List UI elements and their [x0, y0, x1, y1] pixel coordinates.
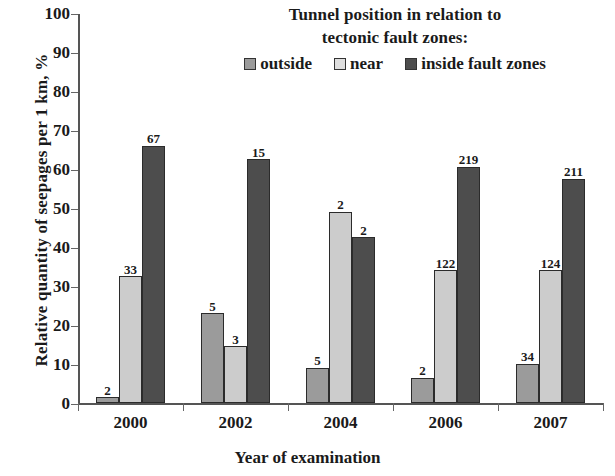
bar-2004-near: 2 [329, 212, 352, 403]
x-axis-tick-label: 2006 [393, 414, 498, 431]
y-axis-tick [71, 287, 78, 288]
y-axis-tick-label: 100 [26, 5, 70, 22]
y-axis-tick-label: 20 [26, 317, 70, 334]
y-axis-tick-label: 50 [26, 200, 70, 217]
y-axis-tick [71, 53, 78, 54]
x-axis-tick [78, 403, 79, 411]
x-axis-tick-label: 2007 [498, 414, 603, 431]
y-axis-tick [71, 365, 78, 366]
bar-value-label: 15 [252, 146, 265, 160]
bar-value-label: 2 [337, 198, 344, 212]
bar-value-label: 5 [314, 354, 321, 368]
bar-value-label: 34 [521, 350, 534, 364]
bar-value-label: 33 [124, 263, 137, 277]
y-axis-tick [71, 404, 78, 405]
bar-2004-outside: 5 [306, 368, 329, 403]
bar-value-label: 2 [419, 364, 426, 378]
bar-2002-outside: 5 [201, 313, 224, 403]
y-axis-tick-label: 0 [26, 395, 70, 412]
y-axis-tick-label: 40 [26, 239, 70, 256]
x-axis-tick-label: 2002 [183, 414, 288, 431]
bar-2002-inside: 15 [247, 159, 270, 403]
bar-2000-inside: 67 [142, 146, 165, 403]
bar-value-label: 2 [360, 224, 367, 238]
x-axis-tick [183, 403, 184, 411]
bar-value-label: 5 [209, 300, 216, 314]
x-axis-tick [498, 403, 499, 411]
y-axis-tick-label: 10 [26, 356, 70, 373]
x-axis-tick [393, 403, 394, 411]
x-axis-tick [288, 403, 289, 411]
y-axis-tick [71, 248, 78, 249]
bar-2007-outside: 34 [516, 364, 539, 403]
x-axis-tick-label: 2004 [288, 414, 393, 431]
bar-value-label: 219 [459, 153, 479, 167]
bar-2007-inside: 211 [562, 179, 585, 403]
y-axis-tick-label: 60 [26, 161, 70, 178]
y-axis-tick-label: 70 [26, 122, 70, 139]
bar-2004-inside: 2 [352, 237, 375, 403]
bar-2006-inside: 219 [457, 167, 480, 403]
bar-value-label: 2 [104, 384, 111, 398]
chart-figure: Relative quantity of seepages per 1 km, … [0, 0, 615, 476]
y-axis-tick [71, 131, 78, 132]
x-axis-title: Year of examination [0, 448, 615, 468]
bar-value-label: 122 [436, 257, 456, 271]
y-axis-tick [71, 326, 78, 327]
bar-value-label: 67 [147, 132, 160, 146]
y-axis-tick [71, 170, 78, 171]
bar-2007-near: 124 [539, 270, 562, 403]
plot-area: 0102030405060708090100200023367200253152… [78, 14, 603, 404]
x-axis-tick [603, 403, 604, 411]
y-axis-tick-label: 80 [26, 83, 70, 100]
bar-value-label: 124 [541, 257, 561, 271]
bar-value-label: 3 [232, 333, 239, 347]
bar-value-label: 211 [564, 165, 583, 179]
bar-2000-outside: 2 [96, 397, 119, 403]
bar-2002-near: 3 [224, 346, 247, 403]
bar-2000-near: 33 [119, 276, 142, 403]
y-axis-tick-label: 30 [26, 278, 70, 295]
x-axis-line [78, 403, 603, 405]
y-axis-tick-label: 90 [26, 44, 70, 61]
bar-2006-near: 122 [434, 270, 457, 403]
bar-2006-outside: 2 [411, 378, 434, 403]
y-axis-tick [71, 92, 78, 93]
x-axis-tick-label: 2000 [78, 414, 183, 431]
y-axis-line [78, 14, 80, 404]
y-axis-tick [71, 14, 78, 15]
y-axis-tick [71, 209, 78, 210]
